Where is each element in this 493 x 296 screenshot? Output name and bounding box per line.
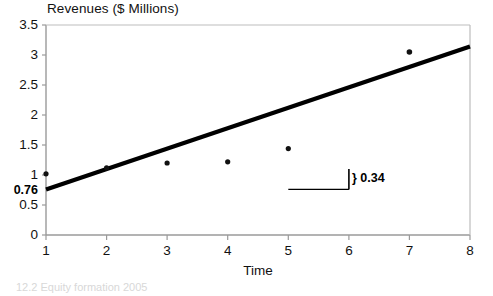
x-tick-label-6: 6 <box>337 243 361 258</box>
x-tick-label-4: 4 <box>216 243 240 258</box>
intercept-annotation: 0.76 <box>2 183 38 197</box>
data-point <box>104 165 109 170</box>
x-axis-ticks <box>46 235 470 240</box>
y-tick-label-1-5: 1.5 <box>2 137 38 152</box>
page-caption: 12.2 Equity formation 2005 <box>16 281 276 294</box>
y-tick-label-2: 2 <box>2 107 38 122</box>
x-tick-label-3: 3 <box>155 243 179 258</box>
y-tick-label-3: 3 <box>2 47 38 62</box>
x-tick-label-5: 5 <box>276 243 300 258</box>
data-point <box>286 146 291 151</box>
y-tick-label-3-5: 3.5 <box>2 17 38 32</box>
slope-annotation: } 0.34 <box>352 171 385 185</box>
y-tick-label-2-5: 2.5 <box>2 77 38 92</box>
data-point <box>43 171 48 176</box>
slope-triangle <box>288 169 349 190</box>
trend-line <box>46 47 470 190</box>
y-tick-label-0-5: 0.5 <box>2 197 38 212</box>
x-tick-label-1: 1 <box>34 243 58 258</box>
x-tick-label-8: 8 <box>458 243 482 258</box>
data-point <box>407 49 413 55</box>
data-point <box>225 159 230 164</box>
x-tick-label-2: 2 <box>95 243 119 258</box>
data-points <box>43 49 412 176</box>
x-axis-title: Time <box>198 263 318 278</box>
data-point <box>165 160 170 165</box>
y-tick-label-1: 1 <box>2 167 38 182</box>
y-tick-label-0: 0 <box>2 227 38 242</box>
chart-figure: Revenues ($ Millions) <box>0 0 493 296</box>
x-tick-label-7: 7 <box>397 243 421 258</box>
